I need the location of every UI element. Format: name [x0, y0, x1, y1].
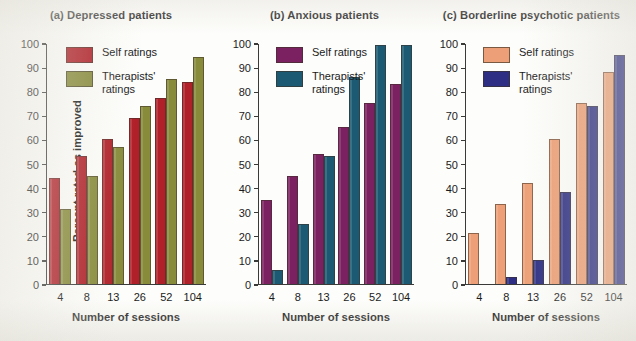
y-tick-label: 30 — [446, 207, 458, 219]
legend-label-self-ratings: Self ratings — [312, 46, 367, 59]
legend-item-self-ratings: Self ratings — [276, 46, 367, 63]
bar-self-ratings — [549, 139, 560, 284]
y-tick-label: 60 — [27, 134, 39, 146]
panel-c-x-axis-title: Number of sessions — [465, 311, 627, 323]
legend-swatch-therapist-ratings — [66, 71, 93, 87]
bar-therapist-ratings — [324, 156, 335, 284]
y-tick-label: 20 — [27, 231, 39, 243]
x-tick-label: 26 — [546, 291, 573, 303]
legend-label-therapist-ratings: Therapists' ratings — [519, 70, 572, 95]
y-tick-mark — [42, 188, 47, 189]
x-tick-label: 13 — [520, 291, 547, 303]
x-tick-label: 26 — [336, 291, 362, 303]
y-tick-mark — [254, 188, 259, 189]
y-tick-mark — [254, 140, 259, 141]
y-tick-mark — [461, 284, 466, 285]
y-tick-mark — [42, 236, 47, 237]
bar-therapist-ratings — [272, 270, 283, 284]
bar-therapist-ratings — [506, 277, 517, 284]
y-tick-mark — [42, 260, 47, 261]
y-tick-label: 40 — [27, 183, 39, 195]
y-tick-label: 90 — [446, 62, 458, 74]
y-tick-mark — [461, 140, 466, 141]
y-tick-label: 100 — [21, 38, 39, 50]
bar-group — [573, 44, 600, 284]
y-tick-mark — [461, 212, 466, 213]
y-tick-label: 70 — [239, 110, 251, 122]
y-tick-label: 50 — [239, 159, 251, 171]
x-tick-label: 52 — [153, 291, 180, 303]
y-tick-mark — [42, 284, 47, 285]
y-tick-label: 90 — [27, 62, 39, 74]
panel-depressed-patients: (a) Depressed patients Percent rated as … — [0, 0, 222, 341]
y-tick-label: 60 — [239, 134, 251, 146]
bar-group — [600, 44, 627, 284]
legend-item-self-ratings: Self ratings — [66, 46, 157, 63]
y-tick-label: 20 — [239, 231, 251, 243]
bar-therapist-ratings — [533, 260, 544, 284]
legend-item-therapist-ratings: Therapists' ratings — [276, 70, 367, 95]
bar-self-ratings — [49, 178, 60, 284]
x-tick-label: 52 — [573, 291, 600, 303]
y-tick-mark — [254, 92, 259, 93]
legend-label-therapist-ratings: Therapists' ratings — [102, 70, 155, 95]
y-tick-label: 0 — [245, 279, 251, 291]
legend-item-self-ratings: Self ratings — [483, 46, 574, 63]
y-tick-label: 90 — [239, 62, 251, 74]
bar-therapist-ratings — [166, 79, 177, 284]
bar-self-ratings — [495, 204, 506, 284]
y-tick-label: 40 — [239, 183, 251, 195]
y-tick-label: 0 — [33, 279, 39, 291]
x-tick-label: 104 — [600, 291, 627, 303]
bar-self-ratings — [129, 118, 140, 284]
x-tick-label: 52 — [362, 291, 388, 303]
panel-b-title: (b) Anxious patients — [222, 9, 427, 21]
y-tick-label: 20 — [446, 231, 458, 243]
y-tick-mark — [461, 188, 466, 189]
panel-c-legend: Self ratings Therapists' ratings — [483, 46, 574, 102]
y-tick-mark — [42, 68, 47, 69]
panel-b-x-tick-labels: 48132652104 — [259, 291, 414, 303]
y-tick-mark — [254, 164, 259, 165]
bar-self-ratings — [313, 154, 324, 284]
y-tick-label: 100 — [440, 38, 458, 50]
bar-therapist-ratings — [113, 147, 124, 284]
bar-self-ratings — [338, 127, 349, 284]
y-tick-mark — [461, 164, 466, 165]
y-tick-label: 30 — [239, 207, 251, 219]
y-tick-mark — [254, 236, 259, 237]
y-tick-label: 10 — [27, 255, 39, 267]
x-tick-label: 104 — [180, 291, 207, 303]
y-tick-mark — [461, 116, 466, 117]
y-tick-label: 10 — [446, 255, 458, 267]
x-tick-label: 8 — [285, 291, 311, 303]
bar-therapist-ratings — [375, 45, 386, 284]
bar-therapist-ratings — [140, 106, 151, 284]
y-tick-mark — [42, 140, 47, 141]
bar-self-ratings — [522, 183, 533, 284]
bar-self-ratings — [364, 103, 375, 284]
y-tick-mark — [254, 43, 259, 44]
legend-swatch-self-ratings — [483, 47, 510, 63]
bar-therapist-ratings — [349, 77, 360, 284]
x-tick-label: 4 — [47, 291, 74, 303]
y-tick-label: 80 — [446, 86, 458, 98]
legend-item-therapist-ratings: Therapists' ratings — [483, 70, 574, 95]
panel-a-x-tick-labels: 48132652104 — [47, 291, 206, 303]
panel-a-title: (a) Depressed patients — [0, 9, 222, 21]
y-tick-mark — [42, 43, 47, 44]
bar-therapist-ratings — [87, 176, 98, 284]
legend-swatch-therapist-ratings — [276, 71, 303, 87]
y-tick-mark — [254, 260, 259, 261]
y-tick-label: 30 — [27, 207, 39, 219]
y-tick-mark — [42, 116, 47, 117]
y-tick-mark — [254, 116, 259, 117]
bar-group — [388, 44, 414, 284]
legend-swatch-self-ratings — [66, 47, 93, 63]
bar-therapist-ratings — [401, 45, 412, 284]
y-tick-label: 100 — [233, 38, 251, 50]
x-tick-label: 4 — [466, 291, 493, 303]
y-tick-mark — [254, 284, 259, 285]
panel-b-legend: Self ratings Therapists' ratings — [276, 46, 367, 102]
three-panel-bar-figure: (a) Depressed patients Percent rated as … — [0, 0, 636, 341]
